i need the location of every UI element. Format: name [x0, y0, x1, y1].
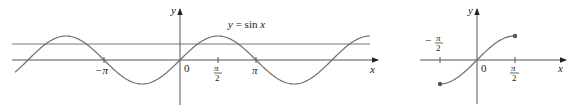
right-restricted-sine-graph: y x 0 − π 2 π 2 — [420, 4, 566, 104]
left-sine-graph: y x 0 y = sin x −π π 2 π — [12, 4, 378, 105]
right-endpoint — [513, 34, 517, 38]
y-axis-label: y — [170, 4, 176, 16]
tick-label-neg-sign: − — [425, 34, 431, 46]
tick-label-pi-half-den: 2 — [215, 73, 220, 83]
x-axis-label: x — [369, 63, 375, 75]
left-endpoint — [438, 82, 442, 86]
curve-label: y = sin x — [227, 18, 265, 30]
tick-label-pi-half-right-den: 2 — [512, 73, 517, 83]
tick-label-pi-half-right-num: π — [511, 63, 516, 73]
origin-label-right: 0 — [481, 62, 487, 74]
tick-label-neg-pi-half-den: 2 — [436, 43, 441, 53]
x-axis-label-right: x — [557, 62, 563, 74]
tick-label-pi: π — [252, 64, 258, 76]
figure-canvas: y x 0 y = sin x −π π 2 π y x 0 − π 2 π — [0, 0, 573, 111]
tick-label-neg-pi-half-num: π — [436, 33, 441, 43]
tick-label-pi-half-num: π — [214, 63, 219, 73]
tick-label-neg-pi: −π — [95, 64, 108, 76]
origin-label: 0 — [184, 62, 190, 74]
y-axis-label-right: y — [467, 4, 473, 16]
